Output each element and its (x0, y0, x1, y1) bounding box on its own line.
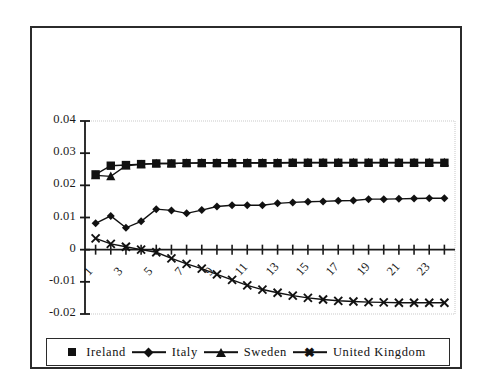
y-tick-label: 0.02 (53, 176, 76, 191)
legend-marker-square-icon (64, 345, 80, 359)
legend-label: Sweden (238, 345, 293, 360)
legend-item-united-kingdom[interactable]: ✖United Kingdom (293, 345, 432, 360)
legend-item-italy[interactable]: Italy (132, 345, 204, 360)
y-tick-label: 0.03 (53, 144, 76, 159)
legend-label: United Kingdom (327, 345, 432, 360)
legend-diamond-glyph (144, 347, 154, 357)
series-ireland (91, 159, 448, 179)
y-tick-label: 0.04 (53, 112, 76, 127)
legend-label: Italy (166, 345, 204, 360)
legend-marker-x-icon: ✖ (293, 345, 327, 359)
legend-item-ireland[interactable]: Ireland (64, 345, 132, 360)
line-chart-canvas (0, 0, 488, 392)
axis-lines (85, 121, 455, 314)
y-tick-label: -0.02 (49, 305, 76, 320)
chart-legend: IrelandItalySweden✖United Kingdom (46, 338, 450, 366)
y-tick-label: 0.01 (53, 209, 76, 224)
y-tick-label: 0 (70, 241, 76, 256)
legend-label: Ireland (80, 345, 132, 360)
legend-square-glyph (68, 348, 76, 356)
chart-figure: 0.040.030.020.010-0.01-0.02 135791113151… (0, 0, 488, 392)
legend-item-sweden[interactable]: Sweden (204, 345, 293, 360)
legend-marker-diamond-icon (132, 345, 166, 359)
series-italy (92, 194, 449, 232)
legend-marker-triangle-icon (204, 345, 238, 359)
data-series-group (91, 158, 449, 307)
y-tick-label: -0.01 (49, 273, 76, 288)
legend-triangle-glyph (216, 348, 226, 357)
legend-x-glyph: ✖ (304, 348, 315, 357)
plot-area-border (85, 121, 455, 314)
